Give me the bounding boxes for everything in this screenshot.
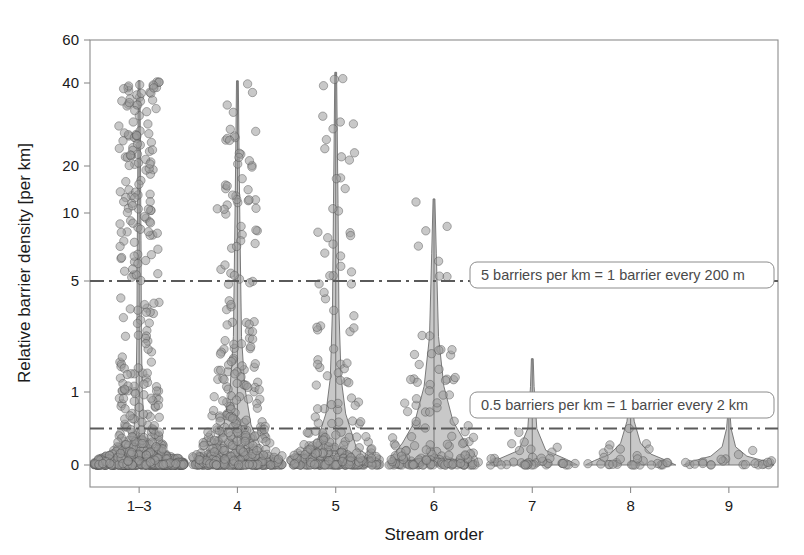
data-point [231, 370, 239, 378]
data-point [172, 459, 180, 467]
data-point [134, 364, 142, 372]
data-point [407, 375, 415, 383]
data-point [407, 433, 415, 441]
data-point [117, 228, 125, 236]
data-point [699, 459, 707, 467]
x-tick-label: 7 [528, 497, 536, 514]
data-point [456, 459, 464, 467]
data-point [248, 163, 256, 171]
data-point [412, 417, 420, 425]
plot-canvas: 01510204060 1–3456789 Relative barrier d… [0, 0, 804, 555]
data-point [409, 461, 417, 469]
data-point [415, 360, 423, 368]
data-point [137, 89, 145, 97]
data-point [326, 272, 334, 280]
data-point [461, 451, 469, 459]
data-point [328, 419, 336, 427]
data-point [337, 153, 345, 161]
data-point [341, 184, 349, 192]
data-point [749, 446, 757, 454]
data-point [129, 265, 137, 273]
data-point [150, 84, 158, 92]
data-point [330, 306, 338, 314]
y-tick-label: 1 [71, 383, 79, 400]
data-point [128, 448, 136, 456]
data-point [117, 253, 125, 261]
data-point [422, 227, 430, 235]
data-point [152, 443, 160, 451]
data-point [351, 401, 359, 409]
data-point [459, 439, 467, 447]
data-point [242, 416, 250, 424]
data-point [274, 455, 282, 463]
data-point [131, 106, 139, 114]
data-point [126, 412, 134, 420]
data-point [645, 445, 653, 453]
x-tick-label: 9 [725, 497, 733, 514]
data-point [350, 312, 358, 320]
data-point [216, 417, 224, 425]
data-point [140, 300, 148, 308]
data-point [142, 339, 150, 347]
data-point [508, 440, 516, 448]
data-point [155, 413, 163, 421]
data-point [321, 249, 329, 257]
data-point [238, 175, 246, 183]
data-point [336, 252, 344, 260]
data-point [343, 359, 351, 367]
data-point [251, 432, 259, 440]
data-point [763, 458, 771, 466]
data-point [443, 440, 451, 448]
data-point [232, 242, 240, 250]
data-point [336, 118, 344, 126]
data-point [401, 399, 409, 407]
data-point [228, 414, 236, 422]
data-point [310, 460, 318, 468]
data-point [152, 104, 160, 112]
data-point [146, 458, 154, 466]
data-point [332, 431, 340, 439]
data-point [418, 331, 426, 339]
data-point [125, 98, 133, 106]
data-point [597, 460, 605, 468]
data-point [119, 313, 127, 321]
data-point [121, 332, 129, 340]
data-point [350, 149, 358, 157]
data-point [353, 433, 361, 441]
data-point [339, 74, 347, 82]
data-point [253, 404, 261, 412]
data-point [245, 196, 253, 204]
data-point [116, 220, 124, 228]
data-point [148, 146, 156, 154]
data-point [584, 460, 592, 468]
data-point [252, 127, 260, 135]
data-point [143, 369, 151, 377]
data-point [319, 112, 327, 120]
data-point [223, 182, 231, 190]
data-point [435, 272, 443, 280]
data-point [391, 442, 399, 450]
data-point [426, 332, 434, 340]
data-point [115, 144, 123, 152]
data-point [345, 379, 353, 387]
data-point [140, 391, 148, 399]
data-point [154, 401, 162, 409]
data-point [251, 360, 259, 368]
data-point [368, 445, 376, 453]
data-point [435, 365, 443, 373]
annotation-upper-label: 5 barriers per km = 1 barrier every 200 … [481, 267, 745, 283]
data-point [118, 97, 126, 105]
data-point [290, 451, 298, 459]
data-point [332, 175, 340, 183]
y-tick-label: 60 [62, 31, 79, 48]
data-point [230, 271, 238, 279]
data-point [233, 437, 241, 445]
data-point [213, 205, 221, 213]
data-point [227, 405, 235, 413]
data-point [717, 455, 725, 463]
data-point [347, 268, 355, 276]
data-point [520, 438, 528, 446]
data-point [126, 151, 134, 159]
data-point [134, 306, 142, 314]
data-point [210, 448, 218, 456]
